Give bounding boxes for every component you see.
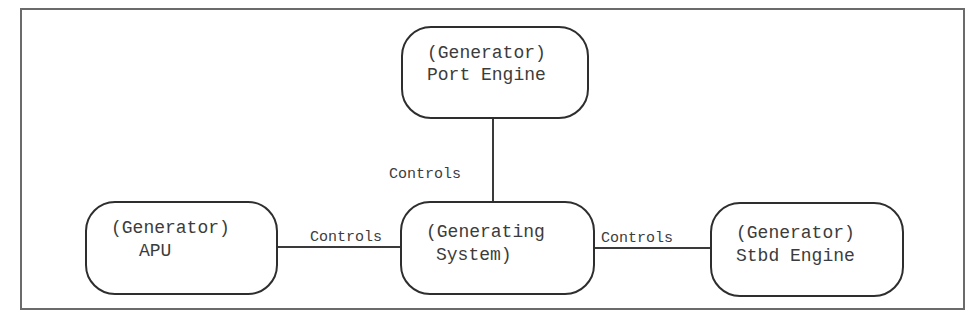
node-stbd-engine[interactable]: (Generator) Stbd Engine	[710, 202, 904, 297]
node-apu-type: (Generator)	[111, 217, 230, 239]
node-port-engine[interactable]: (Generator) Port Engine	[401, 26, 589, 119]
node-apu-name: APU	[139, 240, 171, 262]
edge-label-port-engine: Controls	[389, 166, 461, 184]
edge-label-apu: Controls	[310, 229, 382, 247]
node-stbd-engine-type: (Generator)	[736, 222, 855, 244]
node-port-engine-name: Port Engine	[427, 64, 546, 86]
node-stbd-engine-name: Stbd Engine	[736, 245, 855, 267]
node-apu[interactable]: (Generator) APU	[85, 201, 278, 295]
node-generating-system-line2: System)	[436, 244, 512, 266]
edge-port-engine-connector	[492, 117, 494, 202]
node-generating-system-line1: (Generating	[426, 221, 545, 243]
node-port-engine-type: (Generator)	[427, 42, 546, 64]
node-generating-system[interactable]: (Generating System)	[400, 201, 595, 295]
edge-label-stbd-engine: Controls	[601, 230, 673, 248]
